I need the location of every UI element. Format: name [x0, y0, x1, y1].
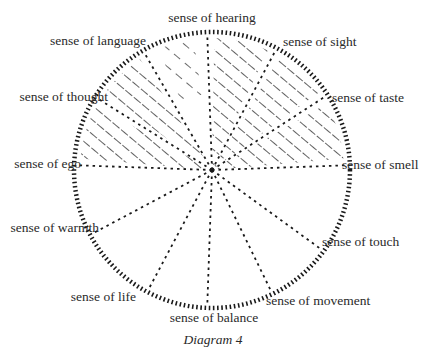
ray-life — [148, 170, 212, 290]
label-sense-movement: sense of movement — [266, 293, 370, 308]
ray-balance — [207, 170, 212, 306]
label-sense-touch: sense of touch — [322, 234, 399, 249]
label-sense-balance: sense of balance — [170, 310, 258, 325]
label-sense-ego: sense of ego — [14, 156, 81, 171]
ray-touch — [212, 170, 322, 250]
label-sense-thought: sense of thought — [20, 89, 109, 104]
label-sense-hearing: sense of hearing — [168, 10, 256, 25]
ray-warmth — [92, 170, 212, 234]
label-sense-smell: sense of smell — [342, 157, 419, 172]
label-sense-sight: sense of sight — [283, 34, 357, 49]
label-sense-language: sense of language — [50, 33, 146, 48]
partial-hatched-sector-language-hearing — [158, 39, 201, 100]
twelve-senses-diagram: sense of hearingsense of sightsense of t… — [0, 0, 427, 360]
ray-hearing — [207, 34, 212, 170]
label-sense-life: sense of life — [71, 289, 136, 304]
diagram-caption: Diagram 4 — [183, 332, 243, 347]
ray-movement — [212, 170, 272, 292]
sense-radii — [76, 34, 348, 306]
label-sense-taste: sense of taste — [332, 90, 404, 105]
label-sense-warmth: sense of warmth — [11, 220, 100, 235]
diagram-stage: sense of hearingsense of sightsense of t… — [0, 0, 427, 360]
